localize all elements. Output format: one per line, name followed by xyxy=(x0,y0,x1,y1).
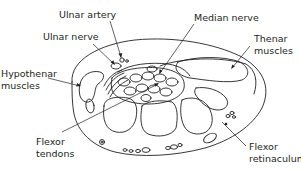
thenar-muscle-shape xyxy=(176,58,248,82)
carpal-bone xyxy=(195,87,228,110)
label-hypothenar-muscles-line1: Hypothenar xyxy=(1,68,57,79)
ulnar-artery-shape xyxy=(120,58,124,62)
label-flexor-tendons-line2: tendons xyxy=(36,148,74,159)
wrist-outline xyxy=(72,39,266,156)
label-thenar-muscles-line1: Thenar xyxy=(254,33,287,44)
wrist-cross-section-diagram: Ulnar artery Ulnar nerve Median nerve Th… xyxy=(0,0,301,170)
carpal-bone xyxy=(141,101,177,136)
thenar-inner-line xyxy=(160,59,256,94)
ulnar-nerve-shape xyxy=(111,63,121,69)
label-ulnar-artery: Ulnar artery xyxy=(59,9,116,20)
label-thenar-muscles-line2: muscles xyxy=(254,45,293,56)
median-nerve-shape xyxy=(147,66,157,72)
hypothenar-muscle-shape xyxy=(79,72,103,103)
label-ulnar-nerve: Ulnar nerve xyxy=(43,31,99,42)
label-flexor-tendons-line1: Flexor xyxy=(36,136,65,147)
label-flexor-retinaculum-line1: Flexor xyxy=(249,141,278,152)
label-flexor-retinaculum-line2: retinaculum xyxy=(249,153,301,164)
label-hypothenar-muscles-line2: muscles xyxy=(1,80,40,91)
label-median-nerve: Median nerve xyxy=(194,12,259,23)
carpal-bone xyxy=(181,98,213,134)
